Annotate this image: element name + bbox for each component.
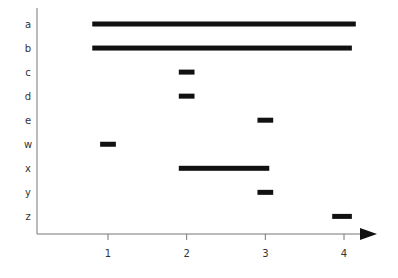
y-label-w: w (24, 139, 32, 150)
y-label-x: x (25, 163, 31, 174)
range-chart: abcdewxyz 1234 (0, 0, 398, 278)
range-bar-a (92, 22, 356, 27)
y-label-c: c (25, 67, 31, 78)
y-label-z: z (25, 211, 30, 222)
y-label-d: d (25, 91, 31, 102)
range-bar-y (257, 190, 273, 195)
range-bar-c (179, 70, 195, 75)
y-label-e: e (25, 115, 31, 126)
range-bar-x (179, 166, 269, 171)
range-bar-z (332, 214, 352, 219)
range-bar-d (179, 94, 195, 99)
range-bar-w (100, 142, 116, 147)
y-axis-labels: abcdewxyz (24, 19, 32, 222)
x-tick-label-2: 2 (183, 248, 189, 259)
x-axis-ticks: 1234 (105, 234, 347, 259)
y-label-b: b (25, 43, 31, 54)
x-axis-arrow-icon (360, 228, 377, 240)
x-tick-label-4: 4 (341, 248, 347, 259)
range-bars (92, 22, 356, 219)
y-label-y: y (25, 187, 31, 198)
x-tick-label-3: 3 (262, 248, 268, 259)
range-bar-b (92, 46, 352, 51)
x-tick-label-1: 1 (105, 248, 111, 259)
y-label-a: a (25, 19, 31, 30)
range-bar-e (257, 118, 273, 123)
